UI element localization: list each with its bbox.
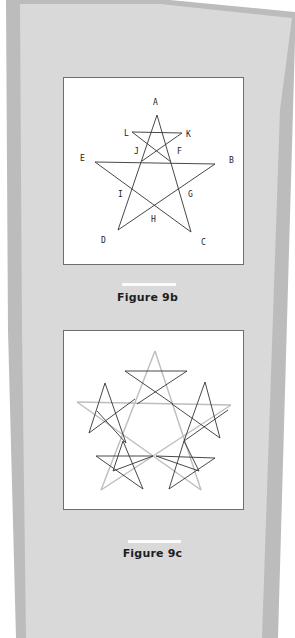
figure-9c-caption-rule: [128, 540, 181, 543]
figure-9b-caption: Figure 9b: [0, 291, 295, 304]
label-c: C: [201, 238, 206, 247]
figure-9c-nested-stars-diagram: [64, 331, 245, 511]
label-k: K: [186, 130, 191, 139]
label-f: F: [177, 147, 182, 156]
label-a: A: [153, 98, 158, 107]
label-e: E: [80, 154, 85, 163]
label-j: J: [134, 147, 139, 156]
label-i: I: [118, 190, 123, 199]
figure-9b-pentagram-diagram: A L K J F E B I G H D C: [64, 78, 245, 266]
figure-9b-caption-rule: [122, 283, 176, 286]
label-d: D: [101, 236, 106, 245]
figure-9c-caption: Figure 9c: [0, 547, 295, 560]
figure-9b-box: A L K J F E B I G H D C: [63, 77, 244, 265]
label-h: H: [151, 215, 156, 224]
label-b: B: [229, 156, 234, 165]
label-g: G: [188, 190, 193, 199]
figure-9c-box: [63, 330, 244, 510]
label-l: L: [124, 129, 129, 138]
